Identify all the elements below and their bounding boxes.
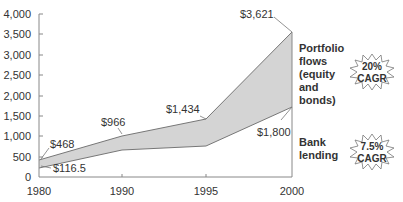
svg-text:and: and (299, 81, 319, 93)
svg-text:lending: lending (299, 149, 338, 161)
x-tick-label: 1995 (194, 185, 218, 197)
y-tick-label: 1,500 (3, 110, 31, 122)
label-116-5: $116.5 (53, 162, 86, 174)
svg-text:(equity: (equity (299, 68, 336, 80)
y-ticks (39, 14, 43, 157)
y-tick-label: 2,500 (3, 69, 31, 81)
svg-text:7.5%: 7.5% (361, 141, 384, 152)
burst-20-cagr: 20% CAGR (350, 54, 394, 90)
legend-bank: Bank lending (299, 136, 338, 161)
label-1434: $1,434 (166, 103, 200, 115)
x-tick-label: 1990 (110, 185, 134, 197)
y-tick-label: 500 (13, 151, 31, 163)
y-tick-label: 1,000 (3, 130, 31, 142)
svg-text:CAGR: CAGR (357, 153, 387, 164)
svg-text:bonds): bonds) (299, 94, 336, 106)
y-tick-label: 3,000 (3, 49, 31, 61)
x-tick-label: 2000 (280, 185, 304, 197)
y-tick-label: 4,000 (3, 8, 31, 20)
label-3621: $3,621 (240, 8, 274, 20)
label-966: $966 (101, 116, 125, 128)
svg-text:CAGR: CAGR (357, 73, 387, 84)
x-tick-label: 1980 (27, 185, 51, 197)
y-tick-label: 2,000 (3, 90, 31, 102)
svg-text:Portfolio: Portfolio (299, 42, 344, 54)
svg-text:20%: 20% (362, 61, 382, 72)
label-1800: $1,800 (257, 126, 291, 138)
burst-7-5-cagr: 7.5% CAGR (350, 134, 394, 170)
chart-svg: 4,000 3,500 3,000 2,500 2,000 1,500 1,00… (0, 0, 403, 202)
y-tick-label: 0 (25, 171, 31, 183)
label-468: $468 (50, 138, 74, 150)
chart-container: 4,000 3,500 3,000 2,500 2,000 1,500 1,00… (0, 0, 403, 202)
legend-portfolio: Portfolio flows (equity and bonds) (299, 42, 344, 106)
svg-text:Bank: Bank (299, 136, 327, 148)
svg-text:flows: flows (299, 55, 327, 67)
y-tick-label: 3,500 (3, 28, 31, 40)
